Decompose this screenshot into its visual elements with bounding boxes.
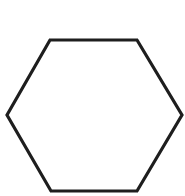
hexagon-shape xyxy=(7,40,182,191)
diagram-canvas xyxy=(0,0,185,196)
hexagon-figure xyxy=(0,0,185,196)
